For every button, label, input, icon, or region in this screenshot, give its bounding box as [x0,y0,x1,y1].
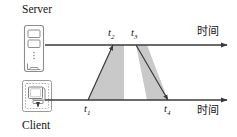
time-marker-t3: t3 [131,28,137,41]
time-marker-t3-sub: 3 [134,33,138,41]
client-node-label: Client [22,120,50,132]
server-tower-icon [25,26,44,72]
server-timeline-axis-label: 时间 [197,26,219,37]
server-node-label: Server [22,4,52,16]
time-marker-t2: t2 [108,28,114,41]
request-transmission-band [88,45,124,100]
client-timeline-axis-label: 时间 [197,105,219,116]
client-monitor-icon [23,81,52,112]
time-marker-t4: t4 [164,104,170,117]
time-marker-t4-sub: 4 [167,109,171,117]
time-marker-t1-sub: 1 [87,109,91,117]
timing-diagram-figure: Server Client 时间 时间 t1 t2 t3 t4 [0,0,237,137]
time-marker-t1: t1 [84,104,90,117]
time-marker-t2-sub: 2 [111,33,115,41]
